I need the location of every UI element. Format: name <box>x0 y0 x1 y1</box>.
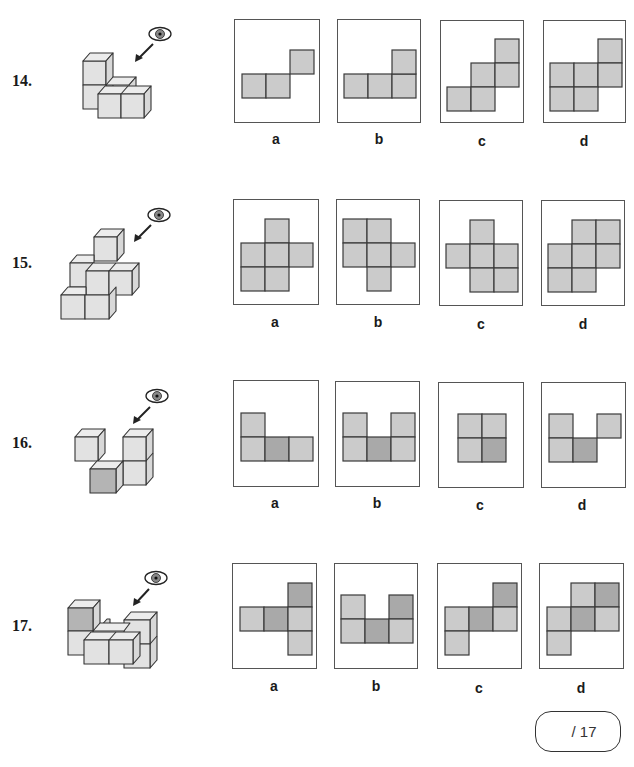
arrow-icon <box>133 589 149 606</box>
option-label: b <box>364 131 394 147</box>
net-grid <box>336 382 421 488</box>
net-grid <box>544 21 627 124</box>
net-grid <box>335 564 419 670</box>
question-number: 16. <box>12 434 32 452</box>
arrow-icon <box>134 225 151 242</box>
net-grid <box>233 564 318 670</box>
option-14-a[interactable] <box>234 19 320 123</box>
net-grid <box>234 200 320 306</box>
option-label: a <box>260 314 290 330</box>
option-16-c[interactable] <box>438 382 524 488</box>
option-16-b[interactable] <box>335 381 420 487</box>
eye-icon <box>145 572 167 585</box>
net-grid <box>439 383 525 489</box>
option-label: c <box>467 133 497 149</box>
score-text: / 17 <box>571 723 596 740</box>
cube-figure-15 <box>55 205 185 325</box>
eye-icon <box>146 390 168 403</box>
option-label: a <box>260 495 290 511</box>
net-grid <box>235 20 321 124</box>
option-label: b <box>363 314 393 330</box>
option-label: c <box>465 497 495 513</box>
option-15-d[interactable] <box>541 200 625 306</box>
option-15-b[interactable] <box>336 199 420 305</box>
cube-figure-17 <box>60 565 180 675</box>
score-box[interactable]: / 17 <box>535 711 621 752</box>
option-label: d <box>568 316 598 332</box>
net-grid <box>337 200 421 306</box>
net-grid <box>542 201 626 307</box>
option-15-c[interactable] <box>439 200 523 306</box>
cube-figure-14 <box>72 22 182 122</box>
option-14-c[interactable] <box>440 20 524 123</box>
eye-icon <box>148 209 170 222</box>
option-17-b[interactable] <box>334 563 418 669</box>
option-label: b <box>362 495 392 511</box>
option-16-d[interactable] <box>541 382 626 488</box>
net-grid <box>540 564 625 670</box>
question-number: 17. <box>12 617 32 635</box>
option-17-d[interactable] <box>539 563 624 669</box>
net-grid <box>338 20 422 124</box>
net-grid <box>441 21 525 124</box>
option-14-b[interactable] <box>337 19 421 123</box>
arrow-icon <box>133 407 150 424</box>
option-label: d <box>569 133 599 149</box>
arrow-icon <box>135 44 153 62</box>
net-grid <box>440 201 524 307</box>
cube-figure-16 <box>70 385 180 495</box>
option-label: b <box>361 678 391 694</box>
option-17-a[interactable] <box>232 563 317 669</box>
option-14-d[interactable] <box>543 20 626 123</box>
question-number: 15. <box>12 254 32 272</box>
question-number: 14. <box>12 72 32 90</box>
option-17-c[interactable] <box>437 563 522 669</box>
net-grid <box>542 383 627 489</box>
option-label: a <box>261 131 291 147</box>
option-15-a[interactable] <box>233 199 319 305</box>
option-label: a <box>259 678 289 694</box>
net-grid <box>438 564 523 670</box>
eye-icon <box>149 28 171 41</box>
option-label: c <box>466 316 496 332</box>
net-grid <box>234 381 320 488</box>
option-label: d <box>566 680 596 696</box>
option-label: c <box>464 680 494 696</box>
option-16-a[interactable] <box>233 380 319 487</box>
option-label: d <box>567 497 597 513</box>
